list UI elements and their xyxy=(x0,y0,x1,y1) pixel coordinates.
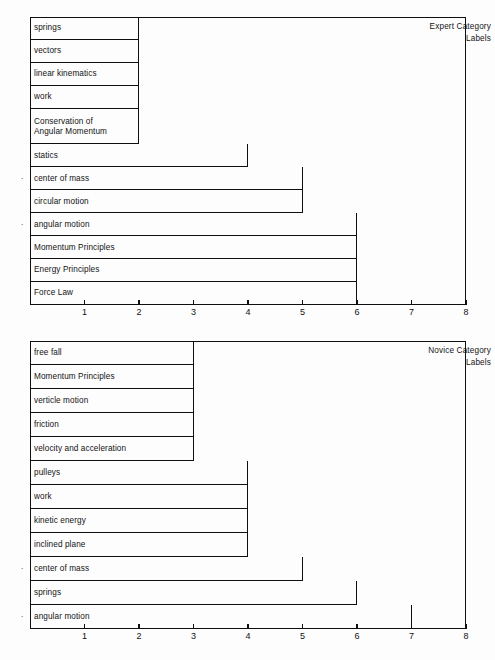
x-axis-tick xyxy=(465,300,466,305)
bar-row: Energy Principles xyxy=(30,259,466,282)
x-axis-tick-label: 3 xyxy=(184,307,204,317)
x-axis-tick xyxy=(356,300,357,305)
x-axis-tick-label: 1 xyxy=(75,307,95,317)
expert-bar-7 xyxy=(30,190,303,213)
x-axis-tick-label: 8 xyxy=(456,307,476,317)
novice-bar-10 xyxy=(30,581,357,605)
expert-bar-6 xyxy=(30,167,303,190)
x-axis-tick xyxy=(411,624,412,629)
bar-row: springs xyxy=(30,17,466,40)
bar-row: statics xyxy=(30,144,466,167)
x-axis-tick xyxy=(84,624,85,629)
x-axis-tick-label: 5 xyxy=(293,631,313,641)
novice-bar-4 xyxy=(30,437,194,461)
expert-category-chart: Expert Category Labels springsvectorslin… xyxy=(0,0,495,330)
x-axis-tick-label: 6 xyxy=(347,631,367,641)
x-axis-tick xyxy=(411,300,412,305)
bar-row: springs xyxy=(30,581,466,605)
novice-bar-2 xyxy=(30,389,194,413)
x-axis-tick xyxy=(193,624,194,629)
expert-x-axis: 12345678 xyxy=(30,305,466,327)
x-axis-tick xyxy=(84,300,85,305)
x-axis-tick xyxy=(356,624,357,629)
novice-x-axis: 12345678 xyxy=(30,629,466,651)
novice-bar-rows: free fallMomentum Principlesverticle mot… xyxy=(30,341,466,629)
bar-row: circular motion xyxy=(30,190,466,213)
x-axis-tick xyxy=(302,300,303,305)
novice-bar-7 xyxy=(30,509,248,533)
x-axis-tick-label: 8 xyxy=(456,631,476,641)
expert-bar-9 xyxy=(30,236,357,259)
expert-bar-1 xyxy=(30,40,139,63)
x-axis-tick xyxy=(302,624,303,629)
expert-bar-4 xyxy=(30,109,139,145)
novice-bar-6 xyxy=(30,485,248,509)
novice-bar-1 xyxy=(30,365,194,389)
bar-row: pulleys xyxy=(30,461,466,485)
bar-row: kinetic energy xyxy=(30,509,466,533)
novice-bar-0 xyxy=(30,341,194,365)
novice-bar-3 xyxy=(30,413,194,437)
novice-bar-11 xyxy=(30,605,412,629)
expert-bar-3 xyxy=(30,86,139,109)
bar-row: angular motion· xyxy=(30,213,466,236)
bar-row: center of mass· xyxy=(30,167,466,190)
x-axis-tick-label: 7 xyxy=(402,631,422,641)
bar-row: Momentum Principles xyxy=(30,236,466,259)
bar-row: free fall xyxy=(30,341,466,365)
x-axis-tick xyxy=(138,624,139,629)
novice-bar-8 xyxy=(30,533,248,557)
novice-category-chart: Novice Category Labels free fallMomentum… xyxy=(0,330,495,660)
expert-bar-8 xyxy=(30,213,357,236)
bar-row: Momentum Principles xyxy=(30,365,466,389)
expert-bar-10 xyxy=(30,259,357,282)
x-axis-tick-label: 4 xyxy=(238,307,258,317)
bar-row: inclined plane xyxy=(30,533,466,557)
bar-row: Conservation of Angular Momentum xyxy=(30,109,466,145)
x-axis-tick xyxy=(138,300,139,305)
x-axis-tick xyxy=(247,300,248,305)
x-axis-tick-label: 5 xyxy=(293,307,313,317)
bar-row: vectors xyxy=(30,40,466,63)
x-axis-tick-label: 2 xyxy=(129,631,149,641)
x-axis-tick-label: 4 xyxy=(238,631,258,641)
bar-row: velocity and acceleration xyxy=(30,437,466,461)
x-axis-tick-label: 1 xyxy=(75,631,95,641)
x-axis-tick xyxy=(193,300,194,305)
bar-row: work xyxy=(30,86,466,109)
expert-bar-rows: springsvectorslinear kinematicsworkConse… xyxy=(30,17,466,305)
x-axis-tick xyxy=(465,624,466,629)
x-axis-tick-label: 2 xyxy=(129,307,149,317)
expert-bar-0 xyxy=(30,17,139,40)
bar-row: verticle motion xyxy=(30,389,466,413)
novice-bar-5 xyxy=(30,461,248,485)
novice-bar-9 xyxy=(30,557,303,581)
bar-row: center of mass· xyxy=(30,557,466,581)
x-axis-tick-label: 7 xyxy=(402,307,422,317)
expert-bar-2 xyxy=(30,63,139,86)
shared-category-asterisk-icon: · xyxy=(17,565,27,573)
x-axis-tick-label: 3 xyxy=(184,631,204,641)
expert-bar-5 xyxy=(30,144,248,167)
x-axis-tick xyxy=(247,624,248,629)
bar-row: friction xyxy=(30,413,466,437)
shared-category-asterisk-icon: · xyxy=(17,221,27,229)
bar-row: linear kinematics xyxy=(30,63,466,86)
shared-category-asterisk-icon: · xyxy=(17,175,27,183)
x-axis-tick-label: 6 xyxy=(347,307,367,317)
bar-row: work xyxy=(30,485,466,509)
shared-category-asterisk-icon: · xyxy=(17,613,27,621)
figure-page: Expert Category Labels springsvectorslin… xyxy=(0,0,495,660)
